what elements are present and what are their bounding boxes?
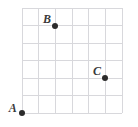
point-label-a: A xyxy=(9,102,17,114)
coordinate-grid-figure: ABC xyxy=(0,0,138,127)
grid-line-group xyxy=(22,8,122,113)
grid-lines xyxy=(0,0,138,127)
data-point-a[interactable] xyxy=(19,110,25,116)
data-point-b[interactable] xyxy=(52,23,58,29)
point-label-b: B xyxy=(43,13,51,25)
point-label-c: C xyxy=(93,65,101,77)
data-point-c[interactable] xyxy=(102,75,108,81)
